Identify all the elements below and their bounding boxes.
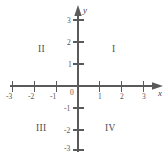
y-tick-label-2: 2: [67, 39, 71, 47]
y-axis-arrowhead: [74, 5, 81, 16]
x-tick-label--3: -3: [6, 93, 12, 101]
quadrant-label-iv: IV: [105, 124, 116, 134]
y-tick-label--1: -1: [64, 105, 70, 113]
y-tick-label--2: -2: [64, 127, 70, 135]
x-tick-label--2: -2: [28, 93, 34, 101]
y-tick-label-3: 3: [67, 17, 71, 25]
origin-label: 0: [70, 89, 74, 97]
axes-drawing: [0, 0, 168, 155]
y-axis-label: y: [83, 6, 87, 15]
y-tick-label--3: -3: [64, 145, 70, 153]
quadrant-label-ii: II: [38, 45, 45, 55]
x-tick-label-1: 1: [98, 93, 102, 101]
x-tick-label-2: 2: [120, 93, 124, 101]
coordinate-plane-figure: x y 0 -3 -2 -1 1 2 3 3 2 1 -1 -2 -3 I II…: [0, 0, 168, 155]
x-tick-label--1: -1: [50, 93, 56, 101]
x-axis-label: x: [158, 89, 162, 98]
y-tick-label-1: 1: [68, 61, 72, 69]
quadrant-label-iii: III: [36, 124, 46, 134]
x-tick-label-3: 3: [142, 93, 146, 101]
quadrant-label-i: I: [112, 45, 115, 55]
